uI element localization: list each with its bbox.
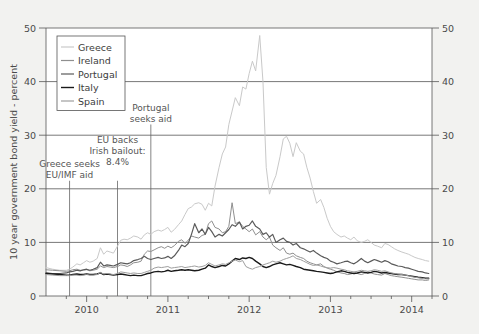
legend-label-spain: Spain: [78, 96, 105, 107]
y-tick-label-right: 30: [442, 130, 454, 141]
y-tick-label-right: 20: [442, 183, 454, 194]
y-tick-label-left: 20: [24, 183, 36, 194]
y-tick-label-left: 10: [24, 237, 36, 248]
chart-figure: 01020304050 01020304050 2010201120122013…: [0, 0, 479, 334]
x-tick-label: 2011: [156, 304, 180, 315]
annotation-label-greece-seeks-aid: Greece seeks: [39, 159, 100, 169]
annotation-label-portugal-seeks-aid: seeks aid: [130, 114, 172, 124]
y-tick-label-left: 50: [24, 23, 36, 34]
y-axis-title-text: 10 year government bond yield - percent: [8, 64, 19, 260]
x-tick-label: 2010: [75, 304, 99, 315]
legend-label-ireland: Ireland: [78, 55, 111, 66]
annotation-label-eu-backs-irish-bailout: 8.4%: [106, 157, 129, 167]
y-tick-label-right: 40: [442, 76, 454, 87]
y-tick-label-right: 10: [442, 237, 454, 248]
y-tick-label-right: 0: [442, 291, 448, 302]
annotation-label-eu-backs-irish-bailout: Irish bailout:: [89, 146, 145, 156]
annotation-label-greece-seeks-aid: EU/IMF aid: [46, 170, 94, 180]
y-tick-label-left: 0: [30, 291, 36, 302]
y-tick-label-left: 30: [24, 130, 36, 141]
legend-label-portugal: Portugal: [78, 69, 117, 80]
x-tick-label: 2012: [237, 304, 261, 315]
bond-yield-line-chart: 01020304050 01020304050 2010201120122013…: [0, 0, 479, 334]
legend-label-greece: Greece: [78, 42, 112, 53]
x-tick-label: 2013: [318, 304, 342, 315]
y-tick-label-right: 50: [442, 23, 454, 34]
annotation-label-eu-backs-irish-bailout: EU backs: [97, 135, 139, 145]
y-axis-title: 10 year government bond yield - percent: [8, 64, 19, 260]
y-tick-label-left: 40: [24, 76, 36, 87]
annotation-label-portugal-seeks-aid: Portugal: [132, 103, 169, 113]
chart-legend: GreeceIrelandPortugalItalySpain: [57, 36, 125, 111]
legend-label-italy: Italy: [78, 82, 99, 93]
x-tick-label: 2014: [400, 304, 424, 315]
